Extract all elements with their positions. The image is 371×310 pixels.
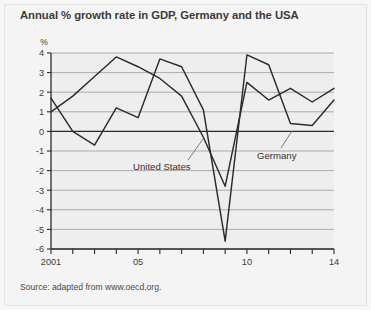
x-tick-label: 10 [242,257,252,267]
x-axis: 2001051014 [41,249,339,267]
figure: Annual % growth rate in GDP, Germany and… [0,0,371,310]
y-axis: 43210-1-2-3-4-5-6% [36,37,51,254]
x-tick-label: 05 [133,257,143,267]
y-tick-label: 3 [39,68,44,78]
y-tick-label: 0 [39,127,44,137]
y-tick-label: 1 [39,107,44,117]
y-tick-label: -1 [36,146,44,156]
y-tick-label: -4 [36,205,44,215]
x-tick-label: 2001 [41,257,61,267]
line-chart: 43210-1-2-3-4-5-6%2001051014United State… [0,0,363,302]
source-note: Source: adapted from www.oecd.org. [20,282,161,292]
y-tick-label: -3 [36,186,44,196]
series-label-united-states: United States [133,161,191,172]
y-tick-label: -5 [36,225,44,235]
y-tick-label: 2 [39,88,44,98]
chart-plot-area: 43210-1-2-3-4-5-6%2001051014United State… [0,0,363,302]
y-tick-label: -2 [36,166,44,176]
y-axis-unit-label: % [40,37,48,47]
series-label-germany: Germany [257,150,297,161]
y-tick-label: -6 [36,244,44,254]
y-tick-label: 4 [39,48,44,58]
x-tick-label: 14 [329,257,339,267]
